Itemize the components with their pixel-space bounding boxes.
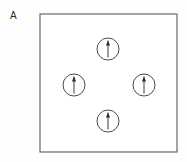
- domain-marker: [97, 110, 119, 132]
- domain-marker: [133, 74, 155, 96]
- figure-panel: A: [0, 0, 187, 162]
- domain-marker: [63, 74, 85, 96]
- domain-marker: [97, 38, 119, 60]
- diagram-canvas: [0, 0, 187, 162]
